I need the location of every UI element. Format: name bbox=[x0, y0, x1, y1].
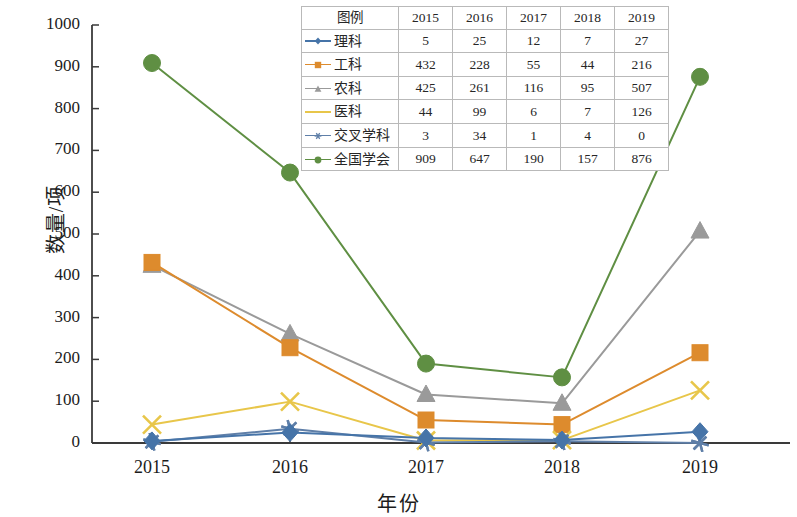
legend-value-cell: 190 bbox=[507, 147, 561, 171]
y-axis-tick-label: 400 bbox=[12, 265, 80, 285]
data-point-全国学会-2015 bbox=[144, 55, 161, 72]
legend-marker-icon bbox=[305, 106, 331, 118]
legend-marker-icon bbox=[305, 130, 331, 142]
legend-value-cell: 7 bbox=[561, 100, 615, 124]
legend-marker-icon bbox=[305, 59, 331, 71]
legend-header-cell-year: 2018 bbox=[561, 7, 615, 30]
legend-marker-icon bbox=[305, 154, 331, 166]
data-point-工科-2015 bbox=[144, 254, 160, 270]
data-point-农科-2016 bbox=[281, 324, 299, 341]
legend-header-cell-year: 2019 bbox=[615, 7, 669, 30]
legend-series-name-cell: 医科 bbox=[302, 100, 399, 124]
x-axis-tick-label: 2015 bbox=[107, 457, 197, 478]
legend-value-cell: 44 bbox=[561, 53, 615, 77]
x-axis-title: 年份 bbox=[0, 488, 797, 517]
legend-value-cell: 909 bbox=[399, 147, 453, 171]
data-point-工科-2017 bbox=[418, 412, 434, 428]
legend-value-cell: 216 bbox=[615, 53, 669, 77]
legend-value-cell: 425 bbox=[399, 76, 453, 100]
legend-series-name-cell: 农科 bbox=[302, 76, 399, 100]
data-point-工科-2016 bbox=[282, 340, 298, 356]
data-point-医科-2015 bbox=[143, 416, 161, 434]
y-axis-tick-label: 300 bbox=[12, 307, 80, 327]
data-point-全国学会-2018 bbox=[554, 369, 571, 386]
data-point-工科-2019 bbox=[692, 345, 708, 361]
legend-value-cell: 7 bbox=[561, 29, 615, 53]
legend-header-cell-year: 2016 bbox=[453, 7, 507, 30]
legend-value-cell: 261 bbox=[453, 76, 507, 100]
legend-swatch-square-icon bbox=[305, 59, 331, 71]
legend-value-cell: 126 bbox=[615, 100, 669, 124]
legend-value-cell: 34 bbox=[453, 124, 507, 148]
y-axis-tick-label: 0 bbox=[12, 432, 80, 452]
legend-series-label: 医科 bbox=[334, 105, 362, 120]
legend-series-label: 农科 bbox=[334, 81, 362, 96]
x-axis-tick-label: 2016 bbox=[245, 457, 335, 478]
legend-value-cell: 116 bbox=[507, 76, 561, 100]
legend-table-row: 全国学会909647190157876 bbox=[302, 147, 669, 171]
data-point-医科-2019 bbox=[691, 381, 709, 399]
x-axis-tick-label: 2017 bbox=[381, 457, 471, 478]
legend-value-cell: 55 bbox=[507, 53, 561, 77]
legend-value-cell: 44 bbox=[399, 100, 453, 124]
legend-value-cell: 25 bbox=[453, 29, 507, 53]
legend-value-cell: 507 bbox=[615, 76, 669, 100]
legend-swatch-cross-icon bbox=[305, 106, 331, 118]
data-point-工科-2018 bbox=[554, 417, 570, 433]
legend-table-row: 医科449967126 bbox=[302, 100, 669, 124]
legend-series-label: 工科 bbox=[334, 57, 362, 72]
legend-table-row: 农科42526111695507 bbox=[302, 76, 669, 100]
legend-value-cell: 27 bbox=[615, 29, 669, 53]
y-axis-tick-label: 200 bbox=[12, 348, 80, 368]
legend-value-cell: 95 bbox=[561, 76, 615, 100]
legend-series-label: 理科 bbox=[334, 34, 362, 49]
legend-value-cell: 0 bbox=[615, 124, 669, 148]
legend-value-cell: 876 bbox=[615, 147, 669, 171]
legend-value-cell: 6 bbox=[507, 100, 561, 124]
chart-container: 数量/项 年份 10009008007006005004003002001000… bbox=[0, 0, 797, 517]
data-point-农科-2019 bbox=[691, 222, 709, 239]
legend-value-cell: 4 bbox=[561, 124, 615, 148]
legend-value-cell: 157 bbox=[561, 147, 615, 171]
legend-swatch-circle-icon bbox=[305, 154, 331, 166]
legend-series-name-cell: 工科 bbox=[302, 53, 399, 77]
legend-value-cell: 1 bbox=[507, 124, 561, 148]
legend-value-cell: 12 bbox=[507, 29, 561, 53]
legend-value-cell: 5 bbox=[399, 29, 453, 53]
legend-swatch-triangle-icon bbox=[305, 83, 331, 95]
legend-series-name-cell: 理科 bbox=[302, 29, 399, 53]
y-axis-tick-label: 800 bbox=[12, 98, 80, 118]
legend-table-row: 工科4322285544216 bbox=[302, 53, 669, 77]
legend-swatch-diamond-icon bbox=[305, 35, 331, 47]
legend-value-cell: 3 bbox=[399, 124, 453, 148]
x-axis-tick-label: 2019 bbox=[655, 457, 745, 478]
y-axis-tick-label: 500 bbox=[12, 223, 80, 243]
data-point-农科-2017 bbox=[417, 385, 435, 402]
y-axis-tick-label: 1000 bbox=[12, 14, 80, 34]
legend-swatch-asterisk-icon bbox=[305, 130, 331, 142]
data-point-医科-2016 bbox=[281, 393, 299, 411]
legend-table-row: 交叉学科334140 bbox=[302, 124, 669, 148]
legend-value-cell: 647 bbox=[453, 147, 507, 171]
legend-data-table: 图例20152016201720182019 理科52512727工科43222… bbox=[301, 6, 669, 171]
legend-series-label: 全国学会 bbox=[334, 152, 390, 167]
legend-value-cell: 99 bbox=[453, 100, 507, 124]
y-axis-tick-label: 600 bbox=[12, 181, 80, 201]
y-axis-title: 数量/项 bbox=[40, 160, 69, 280]
legend-marker-icon bbox=[305, 83, 331, 95]
legend-header-cell-year: 2017 bbox=[507, 7, 561, 30]
y-axis-tick-label: 900 bbox=[12, 56, 80, 76]
y-axis-tick-label: 700 bbox=[12, 139, 80, 159]
data-point-全国学会-2016 bbox=[282, 164, 299, 181]
legend-value-cell: 432 bbox=[399, 53, 453, 77]
legend-header-cell-title: 图例 bbox=[302, 7, 399, 30]
legend-value-cell: 228 bbox=[453, 53, 507, 77]
data-point-全国学会-2017 bbox=[418, 355, 435, 372]
legend-header-cell-year: 2015 bbox=[399, 7, 453, 30]
legend-table-row: 理科52512727 bbox=[302, 29, 669, 53]
legend-marker-icon bbox=[305, 35, 331, 47]
x-axis-tick-label: 2018 bbox=[517, 457, 607, 478]
legend-series-name-cell: 交叉学科 bbox=[302, 124, 399, 148]
data-point-全国学会-2019 bbox=[692, 68, 709, 85]
legend-table-header-row: 图例20152016201720182019 bbox=[302, 7, 669, 30]
